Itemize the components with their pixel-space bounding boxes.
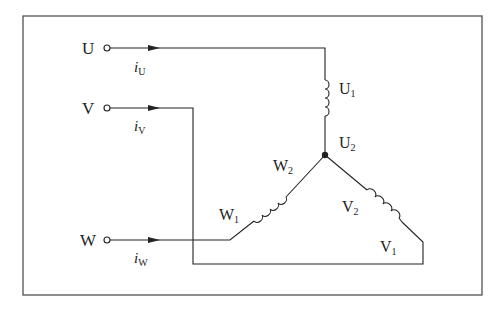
arrow-u-icon (148, 45, 160, 51)
arrow-v-icon (148, 105, 160, 111)
current-w-label: iW (134, 250, 148, 268)
terminal-v-label: V (82, 99, 95, 118)
terminal-w-icon (104, 237, 110, 243)
winding-v1-label: V1 (380, 238, 397, 257)
winding-u1-label: U1 (339, 80, 356, 99)
current-u-label: iU (134, 59, 146, 77)
star-connection-diagram: U V W iU iV iW U1 U2 V2 V1 W2 W1 (0, 0, 499, 312)
neutral-junction-icon (322, 152, 328, 158)
terminal-u-label: U (82, 39, 94, 58)
terminal-w-label: W (80, 231, 97, 250)
winding-u2-label: U2 (339, 134, 356, 153)
winding-w1-label: W1 (219, 206, 239, 225)
arrow-w-icon (148, 237, 160, 243)
coil-v-icon (367, 189, 400, 218)
winding-w2-label: W2 (273, 157, 293, 176)
coil-w-icon (254, 197, 287, 222)
wire-v2 (325, 155, 367, 190)
wire-v1 (399, 218, 402, 222)
wire-w2 (286, 155, 325, 197)
coil-u-icon (325, 80, 329, 116)
wire-w (110, 221, 254, 240)
current-v-label: iV (134, 118, 146, 136)
terminal-u-icon (104, 45, 110, 51)
terminal-v-icon (104, 105, 110, 111)
winding-v2-label: V2 (342, 198, 359, 217)
